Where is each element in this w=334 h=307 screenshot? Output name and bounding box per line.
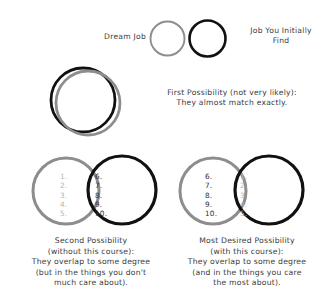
most-desired-possibility-description: Most Desired Possibility (with this cour… <box>168 236 326 289</box>
most-desired-overlap-numbers: 1. 2. 3. 4. 5. <box>240 172 247 218</box>
first-possibility-found-job-circle <box>51 68 115 132</box>
first-possibility-dream-job-circle <box>56 71 120 135</box>
legend-found-job-label: Job You Initially Find <box>232 26 330 46</box>
legend-found-job-circle <box>190 21 226 57</box>
first-possibility-caption: First Possibility (not very likely): The… <box>142 88 322 108</box>
figure-canvas: Dream Job Job You Initially Find First P… <box>0 0 334 307</box>
most-desired-outer-numbers: 6. 7. 8. 9. 10. <box>205 172 217 218</box>
legend-dream-job-label: Dream Job <box>62 32 146 42</box>
legend-dream-job-circle <box>151 22 185 56</box>
second-possibility-description: Second Possibility (without this course)… <box>12 236 170 289</box>
second-possibility-outer-numbers: 1. 2. 3. 4. 5. <box>60 172 67 218</box>
second-possibility-overlap-numbers: 6. 7. 8. 9. 10. <box>95 172 107 218</box>
